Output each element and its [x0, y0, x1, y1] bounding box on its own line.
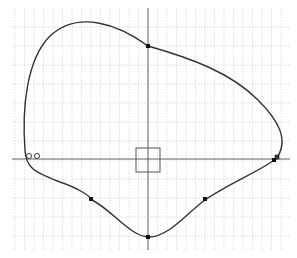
axes: [12, 8, 290, 250]
open-circle-handle[interactable]: [27, 154, 32, 159]
drawing-canvas[interactable]: [0, 0, 297, 258]
lower-left-point[interactable]: [89, 197, 93, 201]
bottom-point[interactable]: [146, 235, 150, 239]
handle-marker[interactable]: [275, 155, 279, 159]
bezier-editor-svg[interactable]: [0, 0, 297, 258]
closed-bezier-curve[interactable]: [24, 22, 282, 237]
lower-right-point[interactable]: [203, 197, 207, 201]
top-point[interactable]: [146, 44, 150, 48]
open-circle-handles[interactable]: [27, 154, 40, 159]
control-points[interactable]: [89, 44, 279, 239]
tick-mark: [147, 122, 149, 124]
open-circle-handle[interactable]: [35, 154, 40, 159]
tick-mark: [182, 158, 184, 160]
grid: [12, 8, 290, 250]
